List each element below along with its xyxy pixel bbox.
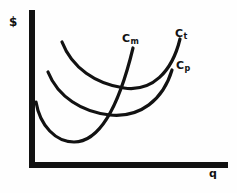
marginal-cost-curve	[36, 48, 133, 142]
cp-subscript: p	[184, 64, 190, 73]
average-variable-cost-curve	[48, 70, 172, 115]
x-axis-label: q	[209, 168, 217, 179]
marginal-cost-curve-label: Cm	[122, 33, 139, 46]
average-total-cost-curve	[62, 39, 180, 89]
ct-subscript: t	[183, 32, 187, 41]
cm-base: C	[122, 32, 130, 45]
cp-base: C	[176, 59, 184, 72]
y-axis-label: $	[9, 16, 17, 28]
diagram-canvas	[0, 0, 237, 193]
ct-base: C	[175, 27, 183, 40]
cm-subscript: m	[130, 37, 139, 46]
cost-curves-figure: $ q Cm Ct Cp	[0, 0, 237, 193]
average-cost-curve-label: Cp	[176, 60, 190, 73]
total-cost-curve-label: Ct	[175, 28, 187, 41]
